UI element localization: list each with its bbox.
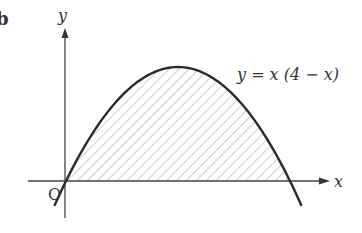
curve-equation: y = x (4 − x) — [236, 65, 339, 84]
origin-label: O — [48, 185, 61, 204]
part-label: b — [0, 8, 9, 29]
y-axis-arrow-icon — [62, 28, 69, 38]
y-axis-label: y — [57, 6, 68, 25]
graph-figure: b y x O y = x (4 − x) — [0, 0, 362, 233]
x-axis-label: x — [334, 172, 343, 191]
x-axis-arrow-icon — [319, 178, 330, 185]
